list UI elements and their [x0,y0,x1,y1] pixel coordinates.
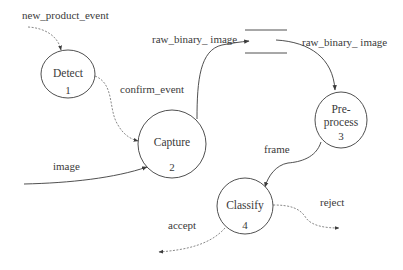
preprocess-name-line2: process [324,116,359,129]
label-raw-binary-image-out: raw_binary_ image [302,36,387,48]
preprocess-number: 3 [338,130,344,142]
accept-arrow [159,228,225,252]
detect-number: 1 [65,84,71,96]
capture-name: Capture [154,136,190,149]
flow-raw-binary-image-to-store [197,41,249,119]
classify-name: Classify [226,199,264,212]
process-capture: Capture 2 [138,110,206,178]
flow-reject [273,205,339,228]
label-confirm-event: confirm_event [120,83,184,95]
capture-number: 2 [169,161,175,173]
process-detect: Detect 1 [41,50,95,98]
raw-binary-image-in-arrow [197,41,249,119]
data-flow-diagram: Detect 1 Capture 2 Pre- process 3 Classi… [0,0,403,270]
data-store [245,30,287,53]
new-product-event-arrow [28,27,61,50]
image-arrow [24,167,147,184]
label-reject: reject [320,196,344,208]
flow-image [24,167,147,184]
label-frame: frame [264,143,290,155]
classify-number: 4 [242,219,248,231]
label-accept: accept [168,219,196,231]
flow-new-product-event [28,27,61,50]
process-preprocess: Pre- process 3 [315,92,367,148]
label-raw-binary-image-in: raw_binary_ image [152,33,237,45]
reject-arrow [273,205,339,228]
preprocess-name-line1: Pre- [331,103,350,115]
process-classify: Classify 4 [217,178,273,234]
label-new-product-event: new_product_event [22,9,109,21]
flow-accept [159,228,225,252]
detect-name: Detect [53,67,84,79]
label-image: image [53,160,80,172]
